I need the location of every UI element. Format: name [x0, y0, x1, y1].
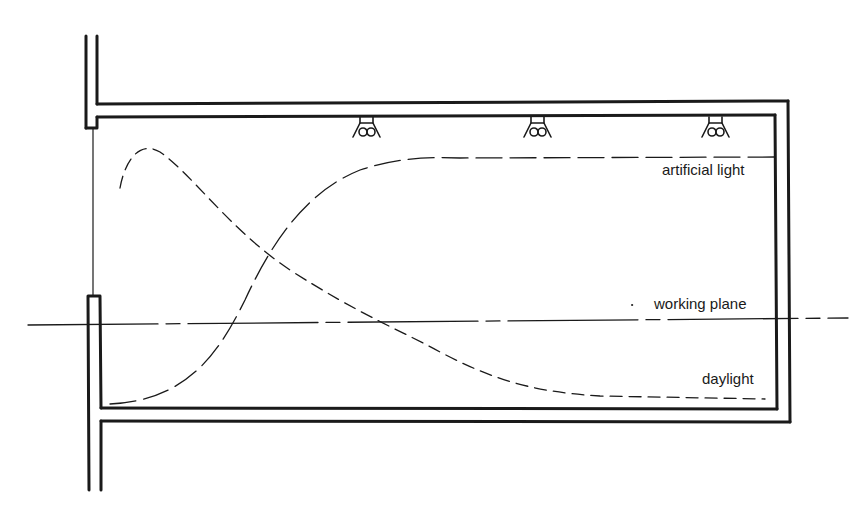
working-plane-line — [28, 318, 848, 325]
room-section-diagram — [0, 0, 862, 505]
stray-mark — [631, 304, 632, 305]
right-wall — [775, 101, 790, 422]
left-wall-upper — [86, 36, 97, 128]
label-working-plane: working plane — [654, 295, 747, 312]
luminaire-icon — [353, 117, 380, 137]
label-daylight: daylight — [702, 370, 754, 387]
floor-slab — [101, 408, 790, 422]
daylight-curve — [120, 148, 765, 399]
artificial-light-curve — [110, 157, 775, 404]
ceiling-slab — [97, 101, 788, 117]
luminaire-icon — [702, 117, 729, 137]
luminaire-icon — [524, 117, 551, 137]
label-artificial-light: artificial light — [662, 161, 745, 178]
